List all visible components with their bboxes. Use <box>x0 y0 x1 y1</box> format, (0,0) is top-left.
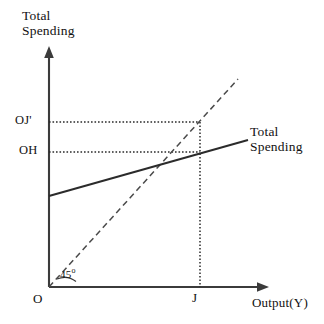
angle-label-45-degrees: 45o <box>60 267 76 281</box>
y-axis-title: Total Spending <box>22 9 75 38</box>
y-axis-arrow-icon <box>44 46 54 58</box>
total-spending-curve <box>49 140 248 196</box>
forty-five-degree-line <box>49 79 238 287</box>
angle-value: 45 <box>60 268 71 280</box>
total-spending-curve-label: Total Spending <box>250 125 303 154</box>
x-tick-label-j: J <box>192 291 197 305</box>
y-tick-label-ojprime: OJ' <box>15 114 32 128</box>
x-axis-arrow-icon <box>257 282 269 292</box>
x-axis-title: Output(Y) <box>252 296 308 310</box>
y-tick-label-oh: OH <box>19 144 37 158</box>
y-axis <box>44 46 54 287</box>
total-spending-diagram <box>0 0 324 324</box>
origin-label: O <box>33 292 43 306</box>
x-axis <box>49 282 269 292</box>
degree-symbol: o <box>71 266 75 275</box>
